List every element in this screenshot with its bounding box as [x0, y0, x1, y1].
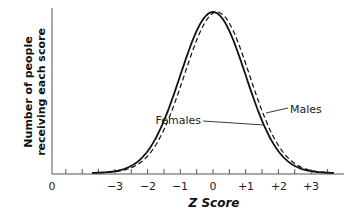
- x-tick-label: +3: [303, 180, 319, 193]
- females-leader-line: [203, 121, 264, 125]
- x-tick-label: 0: [210, 180, 217, 193]
- x-tick-label: +1: [238, 180, 254, 193]
- x-tick-label: −3: [107, 180, 123, 193]
- females-curve: [92, 12, 334, 173]
- y-axis-label-line1: Number of people: [22, 36, 35, 147]
- males-legend-label: Males: [290, 103, 322, 116]
- x-tick-label: −2: [140, 180, 156, 193]
- x-tick-label: +2: [271, 180, 287, 193]
- x-tick-label: −1: [172, 180, 188, 193]
- x-axis-label: Z Score: [188, 196, 240, 210]
- males-curve: [92, 12, 334, 173]
- males-leader-line: [266, 108, 288, 113]
- y-axis-label-line2: receiving each score: [35, 28, 48, 156]
- chart: 0 −3 −2 −1 0 +1 +2 +3 Z Score Number of …: [0, 0, 356, 219]
- x-tick-label-origin: 0: [49, 180, 56, 193]
- females-legend-label: Females: [155, 114, 201, 127]
